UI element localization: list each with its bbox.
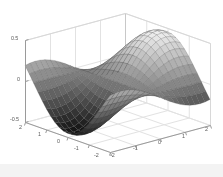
x-axis-tick-label: 2 [205,126,208,132]
y-axis-tick-label: -1 [74,145,79,151]
y-axis-tick-label: 1 [38,131,41,137]
y-axis-tick-label: -2 [94,152,99,158]
z-axis-tick-label: -0.5 [10,116,19,122]
surface-plot-canvas [0,0,223,177]
x-axis-tick-label: -2 [110,152,115,158]
z-axis-tick-label: 0.5 [11,35,18,41]
x-axis-tick-label: 0 [158,139,161,145]
y-axis-tick-label: 2 [19,124,22,130]
figure-footer-band [0,164,223,177]
y-axis-tick-label: 0 [57,138,60,144]
x-axis-tick-label: 1 [182,133,185,139]
figure-screenshot: 0.50-0.5210-1-2-2-1012 [0,0,223,177]
z-axis-tick-label: 0 [17,76,20,82]
x-axis-tick-label: -1 [133,145,138,151]
